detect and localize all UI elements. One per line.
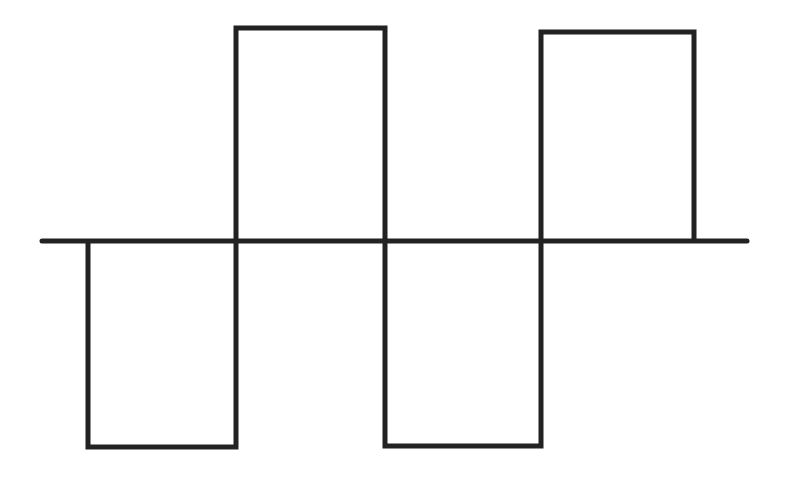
- positive-pulse-4: [541, 32, 694, 241]
- square-wave-diagram: [0, 0, 785, 483]
- pulse-group: [88, 28, 694, 447]
- negative-pulse-3: [385, 241, 541, 446]
- wave-drawing: [0, 0, 785, 483]
- positive-pulse-2: [236, 28, 385, 241]
- negative-pulse-1: [88, 241, 236, 447]
